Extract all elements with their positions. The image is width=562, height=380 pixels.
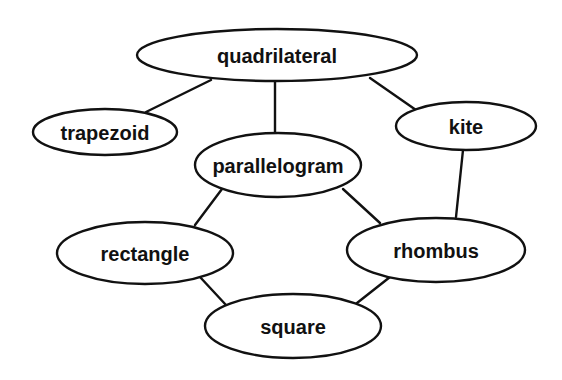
node-label-kite: kite: [449, 116, 483, 138]
edge-rhombus-to-square: [357, 277, 390, 303]
edge-parallelogram-to-rectangle: [195, 189, 222, 225]
node-trapezoid: trapezoid: [33, 109, 177, 155]
node-label-square: square: [260, 316, 326, 338]
node-parallelogram: parallelogram: [195, 133, 361, 197]
nodes-layer: quadrilateraltrapezoidkiteparallelogramr…: [33, 29, 536, 358]
quadrilateral-hierarchy-diagram: quadrilateraltrapezoidkiteparallelogramr…: [0, 0, 562, 380]
edge-quadrilateral-to-trapezoid: [146, 80, 211, 112]
node-rhombus: rhombus: [347, 218, 525, 282]
node-quadrilateral: quadrilateral: [137, 29, 417, 81]
edge-kite-to-rhombus: [456, 150, 463, 217]
node-label-trapezoid: trapezoid: [61, 122, 150, 144]
node-kite: kite: [396, 102, 536, 150]
node-label-parallelogram: parallelogram: [212, 155, 343, 177]
node-square: square: [205, 294, 381, 358]
edge-parallelogram-to-rhombus: [343, 189, 380, 223]
node-label-rectangle: rectangle: [101, 243, 190, 265]
edge-quadrilateral-to-kite: [370, 78, 416, 110]
node-rectangle: rectangle: [57, 222, 233, 284]
edge-rectangle-to-square: [200, 277, 226, 305]
node-label-rhombus: rhombus: [393, 240, 479, 262]
node-label-quadrilateral: quadrilateral: [217, 45, 337, 67]
